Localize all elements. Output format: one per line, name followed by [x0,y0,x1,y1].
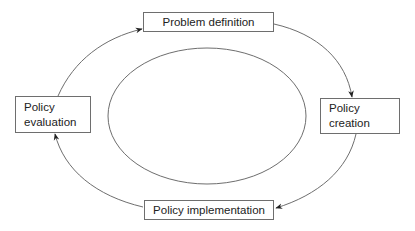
center-ellipse [108,48,306,184]
arrow-evaluation-to-problem [58,29,142,96]
arrow-creation-to-implementation [276,134,356,208]
node-label-line-1: Policy [329,101,399,116]
node-policy-creation: Policy creation [320,98,400,134]
node-label: Policy implementation [145,201,273,219]
node-policy-evaluation: Policy evaluation [15,96,91,133]
node-policy-implementation: Policy implementation [144,200,274,220]
node-label-line-2: evaluation [24,115,90,130]
arrow-implementation-to-evaluation [55,134,143,207]
arrow-problem-to-creation [274,24,352,97]
node-label: Problem definition [144,13,273,31]
node-label-line-2: creation [329,116,399,131]
node-problem-definition: Problem definition [143,12,274,32]
node-label-line-1: Policy [24,100,90,115]
